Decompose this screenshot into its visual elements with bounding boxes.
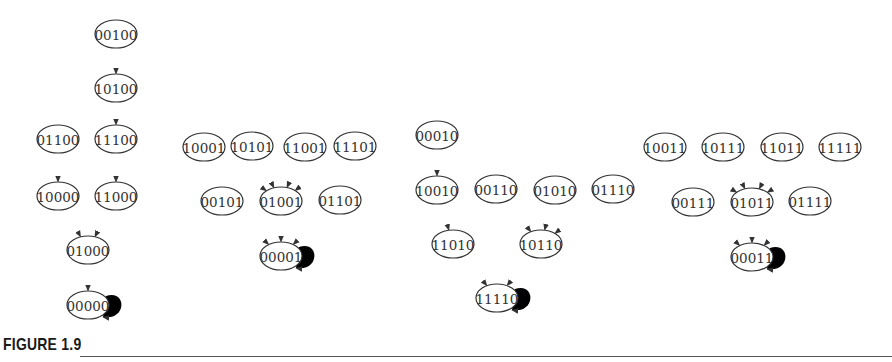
node-label: 11101: [334, 139, 377, 155]
state-node: 01111: [789, 187, 832, 215]
state-node: 10101: [231, 132, 274, 160]
node-label: 10010: [416, 183, 459, 199]
transition-edge: [441, 204, 449, 231]
node-label: 11010: [432, 237, 475, 253]
node-label: 01001: [260, 194, 303, 210]
graph-g2-nodes: 1000110101110011110100101010010110100001: [183, 132, 377, 270]
node-label: 01101: [319, 193, 362, 209]
graph-g3-nodes: 0001010010001100101001110110101011011110: [416, 121, 635, 312]
state-node: 10001: [183, 133, 226, 161]
node-label: 11111: [819, 140, 862, 156]
state-node: 00101: [201, 187, 244, 215]
attractor-node: 11110: [476, 284, 519, 312]
node-label: 00111: [672, 195, 715, 211]
node-label: 10111: [702, 140, 745, 156]
graph-g3-edges: [437, 149, 599, 310]
node-label: 00000: [67, 298, 110, 314]
attractor-node: 00000: [67, 291, 110, 319]
state-node: 11011: [761, 133, 804, 161]
state-node: 11001: [284, 133, 327, 161]
transition-edge: [234, 212, 269, 244]
transition-edge: [287, 160, 299, 187]
node-label: 10001: [183, 140, 226, 156]
transition-edge: [463, 256, 487, 285]
transition-edge: [759, 160, 775, 189]
node-label: 10100: [95, 81, 138, 97]
nodes-layer: 0010010100011001110010000110000100000000…: [37, 20, 862, 319]
state-node: 11100: [95, 125, 138, 153]
state-node: 01000: [67, 236, 110, 264]
state-node: 10011: [644, 133, 687, 161]
attractor-node: 00011: [731, 243, 774, 271]
transition-edge: [705, 213, 740, 245]
figure-caption: FIGURE 1.9: [3, 335, 81, 355]
state-node: 10000: [37, 182, 80, 210]
node-label: 10110: [520, 237, 563, 253]
node-label: 11001: [284, 140, 327, 156]
attractor-node: 00001: [260, 242, 303, 270]
state-node: 01010: [534, 176, 577, 204]
state-node: 10110: [520, 230, 563, 258]
state-node: 10100: [95, 74, 138, 102]
node-label: 01000: [67, 243, 110, 259]
node-label: 00101: [201, 194, 244, 210]
node-label: 00001: [260, 249, 303, 265]
state-node: 01110: [592, 175, 635, 203]
transition-edge: [293, 211, 328, 244]
node-label: 10011: [644, 140, 687, 156]
transition-edge: [764, 213, 798, 246]
state-node: 00111: [672, 188, 715, 216]
transition-edge: [295, 156, 341, 190]
state-transition-diagram: 0010010100011001110010000110000100000000…: [0, 0, 892, 362]
node-label: 11000: [95, 189, 138, 205]
state-node: 10111: [702, 133, 745, 161]
state-node: 01100: [37, 125, 80, 153]
state-node: 01101: [319, 186, 362, 214]
node-label: 01100: [37, 132, 80, 148]
node-label: 00010: [416, 128, 459, 144]
state-node: 00100: [95, 20, 138, 48]
transition-edge: [507, 256, 531, 285]
state-node: 11111: [819, 133, 862, 161]
state-node: 00110: [475, 175, 518, 203]
state-node: 11000: [95, 182, 138, 210]
state-node: 10010: [416, 176, 459, 204]
node-label: 01010: [534, 183, 577, 199]
node-label: 00100: [95, 27, 138, 43]
transition-edge: [218, 157, 266, 191]
graph-g1-nodes: 0010010100011001110010000110000100000000: [37, 20, 138, 319]
graph-g4-nodes: 1001110111110111111100111010110111100011: [644, 133, 862, 271]
node-label: 11011: [761, 140, 804, 156]
transition-edge: [555, 200, 599, 234]
node-label: 01110: [592, 182, 635, 198]
state-node: 11010: [432, 230, 475, 258]
transition-edge: [259, 159, 274, 188]
caption-rule: [80, 356, 892, 357]
transition-edge: [95, 209, 109, 237]
state-node: 01011: [731, 188, 774, 216]
transition-edge: [545, 204, 552, 230]
node-label: 11100: [95, 132, 138, 148]
transition-edge: [506, 201, 531, 231]
transition-edge: [730, 160, 745, 189]
node-label: 01111: [789, 194, 832, 210]
state-node: 01001: [260, 187, 303, 215]
transition-edge: [65, 209, 80, 237]
state-node: 00010: [416, 121, 459, 149]
node-label: 10000: [37, 189, 80, 205]
node-label: 01011: [731, 195, 774, 211]
node-label: 00011: [731, 250, 774, 266]
state-node: 11101: [334, 132, 377, 160]
node-label: 10101: [231, 139, 274, 155]
transition-edge: [680, 157, 737, 193]
node-label: 11110: [476, 291, 519, 307]
node-label: 00110: [475, 182, 518, 198]
